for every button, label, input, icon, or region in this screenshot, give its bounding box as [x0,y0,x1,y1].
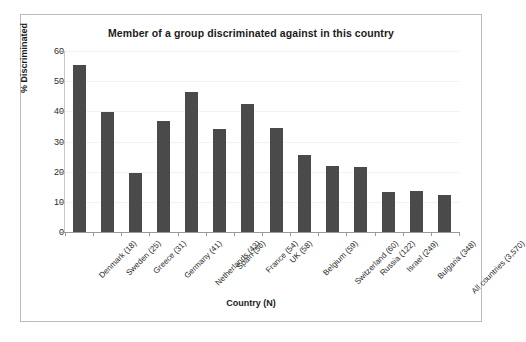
gridline [65,111,459,112]
x-tick-label: All countries (3,570) [470,239,526,296]
x-tick-mark [93,232,94,236]
x-tick-mark [65,232,66,236]
gridline [65,172,459,173]
x-tick-mark [149,232,150,236]
x-tick-mark [403,232,404,236]
y-axis-ticks: 0102030405060 [35,51,64,232]
bar [438,195,451,232]
bar [382,192,395,232]
y-tick-mark [60,81,64,82]
gridline [65,51,459,52]
bar [213,129,226,232]
x-axis-title: Country (N) [21,298,481,308]
x-tick-mark [121,232,122,236]
x-tick-mark [178,232,179,236]
x-tick-mark [346,232,347,236]
x-tick-mark [290,232,291,236]
y-axis-title: % Discriminated [19,23,29,93]
bar [298,155,311,232]
x-tick-label: Bulgaria (348) [435,239,477,281]
bar [157,121,170,232]
bar [354,167,367,232]
gridline [65,81,459,82]
x-tick-mark [375,232,376,236]
gridline [65,202,459,203]
x-tick-mark [431,232,432,236]
y-tick-mark [60,232,64,233]
y-tick-mark [60,51,64,52]
bar [185,92,198,232]
y-tick-mark [60,202,64,203]
bar [241,104,254,232]
chart-title: Member of a group discriminated against … [21,27,481,39]
x-tick-mark [234,232,235,236]
chart-frame: Member of a group discriminated against … [20,14,482,322]
x-tick-label: Belgium (59) [321,239,359,277]
bar [129,173,142,232]
y-tick-mark [60,111,64,112]
bar [101,112,114,232]
bar [410,191,423,232]
x-tick-mark [318,232,319,236]
plot-area [65,51,459,232]
x-tick-mark [206,232,207,236]
x-tick-mark [262,232,263,236]
bar [326,166,339,232]
bar [270,128,283,232]
y-tick-mark [60,172,64,173]
y-tick-mark [60,142,64,143]
x-tick-mark [459,232,460,236]
bar [73,65,86,232]
gridline [65,142,459,143]
